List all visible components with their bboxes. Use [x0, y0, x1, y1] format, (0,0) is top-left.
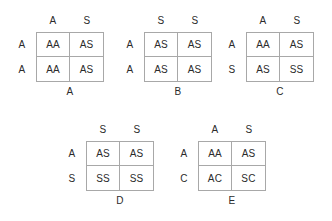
top-allele-labels-b: S S	[144, 12, 212, 30]
genotype-cell: AS	[87, 142, 120, 166]
genotype-cell: AS	[178, 57, 211, 81]
top-allele-1: A	[246, 12, 280, 30]
genotype-grid-e: AA AS AC SC	[198, 141, 266, 191]
genotype-cell: SS	[120, 166, 153, 190]
genotype-grid-c: AA AS AS SS	[246, 32, 314, 82]
punnett-square-a: A S A A AA AS AA AS A	[12, 12, 114, 102]
side-allele-2: S	[62, 166, 82, 191]
top-allele-2: S	[280, 12, 314, 30]
genotype-cell: AS	[70, 33, 103, 57]
genotype-cell: AS	[232, 142, 265, 166]
genotype-cell: AS	[120, 142, 153, 166]
top-allele-labels-a: A S	[36, 12, 104, 30]
genotype-cell: AS	[145, 33, 178, 57]
genotype-grid-b: AS AS AS AS	[144, 32, 212, 82]
square-caption-d: D	[86, 193, 154, 209]
punnett-square-b: S S A A AS AS AS AS B	[120, 12, 222, 102]
side-allele-2: A	[120, 57, 140, 82]
side-allele-labels-c: A S	[222, 32, 242, 82]
top-allele-1: A	[198, 121, 232, 139]
genotype-cell: AS	[178, 33, 211, 57]
genotype-cell: AA	[37, 33, 70, 57]
genotype-cell: AS	[70, 57, 103, 81]
top-allele-2: S	[70, 12, 104, 30]
genotype-cell: SS	[87, 166, 120, 190]
top-allele-2: S	[178, 12, 212, 30]
genotype-cell: AS	[145, 57, 178, 81]
top-allele-1: A	[36, 12, 70, 30]
square-caption-b: B	[144, 84, 212, 100]
genotype-cell: AC	[199, 166, 232, 190]
side-allele-labels-b: A A	[120, 32, 140, 82]
side-allele-labels-a: A A	[12, 32, 32, 82]
side-allele-2: S	[222, 57, 242, 82]
side-allele-2: C	[174, 166, 194, 191]
side-allele-1: A	[222, 32, 242, 57]
genotype-cell: AA	[37, 57, 70, 81]
top-allele-labels-c: A S	[246, 12, 314, 30]
genotype-grid-d: AS AS SS SS	[86, 141, 154, 191]
genotype-grid-a: AA AS AA AS	[36, 32, 104, 82]
top-allele-2: S	[232, 121, 266, 139]
top-allele-1: S	[144, 12, 178, 30]
punnett-square-e: A S A C AA AS AC SC E	[174, 121, 276, 211]
genotype-cell: SS	[280, 57, 313, 81]
punnett-square-figure: A S A A AA AS AA AS A S S A A AS AS AS A…	[0, 0, 332, 221]
genotype-cell: SC	[232, 166, 265, 190]
side-allele-1: A	[174, 141, 194, 166]
punnett-square-d: S S A S AS AS SS SS D	[62, 121, 164, 211]
side-allele-1: A	[62, 141, 82, 166]
top-allele-1: S	[86, 121, 120, 139]
side-allele-1: A	[120, 32, 140, 57]
square-caption-e: E	[198, 193, 266, 209]
genotype-cell: AA	[247, 33, 280, 57]
side-allele-1: A	[12, 32, 32, 57]
genotype-cell: AA	[199, 142, 232, 166]
genotype-cell: AS	[280, 33, 313, 57]
square-caption-a: A	[36, 84, 104, 100]
side-allele-labels-d: A S	[62, 141, 82, 191]
side-allele-labels-e: A C	[174, 141, 194, 191]
top-allele-labels-e: A S	[198, 121, 266, 139]
genotype-cell: AS	[247, 57, 280, 81]
punnett-square-c: A S A S AA AS AS SS C	[222, 12, 324, 102]
square-caption-c: C	[246, 84, 314, 100]
side-allele-2: A	[12, 57, 32, 82]
top-allele-2: S	[120, 121, 154, 139]
top-allele-labels-d: S S	[86, 121, 154, 139]
